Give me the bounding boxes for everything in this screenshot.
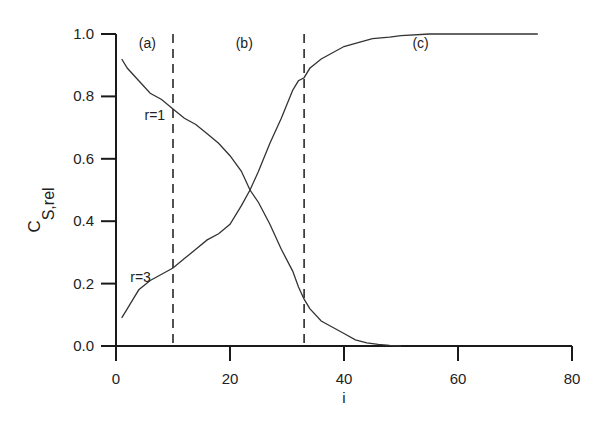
series-line-r1: [122, 59, 401, 346]
series-label: r=1: [145, 107, 166, 123]
y-tick-label: 0.2: [73, 275, 94, 292]
x-axis-label: i: [342, 389, 345, 406]
x-tick-label: 40: [336, 370, 353, 387]
x-tick-label: 60: [450, 370, 467, 387]
series-label: r=3: [130, 269, 151, 285]
region-label: (c): [412, 35, 428, 51]
x-tick-label: 0: [112, 370, 120, 387]
series-line-r3: [122, 34, 538, 318]
region-label: (b): [236, 35, 253, 51]
y-tick-label: 0.8: [73, 87, 94, 104]
x-tick-label: 20: [222, 370, 239, 387]
chart: 0.00.20.40.60.81.0020406080iCS,rel(a)(b)…: [0, 0, 612, 424]
y-tick-label: 0.0: [73, 337, 94, 354]
plot-area: 0.00.20.40.60.81.0020406080iCS,rel(a)(b)…: [25, 25, 580, 406]
x-tick-label: 80: [564, 370, 581, 387]
y-tick-label: 0.6: [73, 150, 94, 167]
y-axis-label: CS,rel: [25, 187, 57, 232]
region-label: (a): [139, 35, 156, 51]
y-tick-label: 1.0: [73, 25, 94, 42]
y-tick-label: 0.4: [73, 212, 94, 229]
